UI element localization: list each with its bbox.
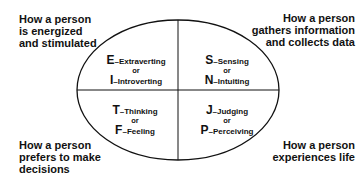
label-line: decisions xyxy=(19,163,101,175)
mbti-preference-diagram: How a person is energized and stimulated… xyxy=(0,0,363,179)
option-feeling: F–Feeling xyxy=(100,125,170,137)
quadrant-extraverting-introverting: E–Extraverting or I–Introverting xyxy=(96,55,176,87)
option-perceiving: P–Perceiving xyxy=(192,125,262,137)
quadrant-thinking-feeling: T–Thinking or F–Feeling xyxy=(100,105,170,137)
label-line: How a person xyxy=(19,13,97,25)
or-connector: or xyxy=(192,67,262,75)
quadrant-judging-perceiving: J–Judging or P–Perceiving xyxy=(192,105,262,137)
or-connector: or xyxy=(96,67,176,75)
corner-label-experiences-life: How a person experiences life xyxy=(272,139,355,163)
label-line: is energized xyxy=(19,25,97,37)
label-line: and stimulated xyxy=(19,37,97,49)
corner-label-decisions: How a person prefers to make decisions xyxy=(19,139,101,175)
corner-label-energized: How a person is energized and stimulated xyxy=(19,13,97,49)
option-intuiting: N–Intuiting xyxy=(192,75,262,87)
label-line: How a person xyxy=(272,139,355,151)
label-line: gathers information xyxy=(252,24,355,36)
corner-label-gathers-information: How a person gathers information and col… xyxy=(252,12,355,48)
or-connector: or xyxy=(100,117,170,125)
label-line: How a person xyxy=(252,12,355,24)
label-line: How a person xyxy=(19,139,101,151)
quadrant-sensing-intuiting: S–Sensing or N–Intuiting xyxy=(192,55,262,87)
option-introverting: I–Introverting xyxy=(96,75,176,87)
label-line: and collects data xyxy=(252,36,355,48)
label-line: experiences life xyxy=(272,151,355,163)
label-line: prefers to make xyxy=(19,151,101,163)
